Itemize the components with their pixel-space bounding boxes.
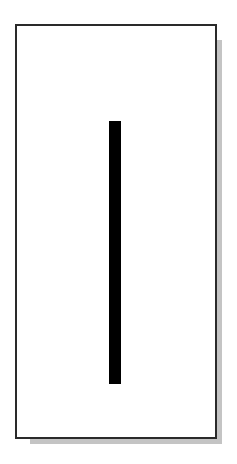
framed-card [15,24,217,439]
vertical-bar [109,121,121,384]
